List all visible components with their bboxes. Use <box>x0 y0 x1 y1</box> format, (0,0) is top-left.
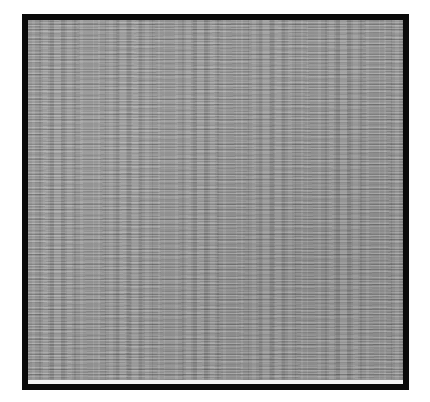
bottom-white-strip <box>28 380 403 384</box>
gray-noise-texture <box>28 20 403 380</box>
texture-shading <box>28 20 403 380</box>
black-frame <box>22 14 409 390</box>
image-canvas <box>0 0 430 402</box>
